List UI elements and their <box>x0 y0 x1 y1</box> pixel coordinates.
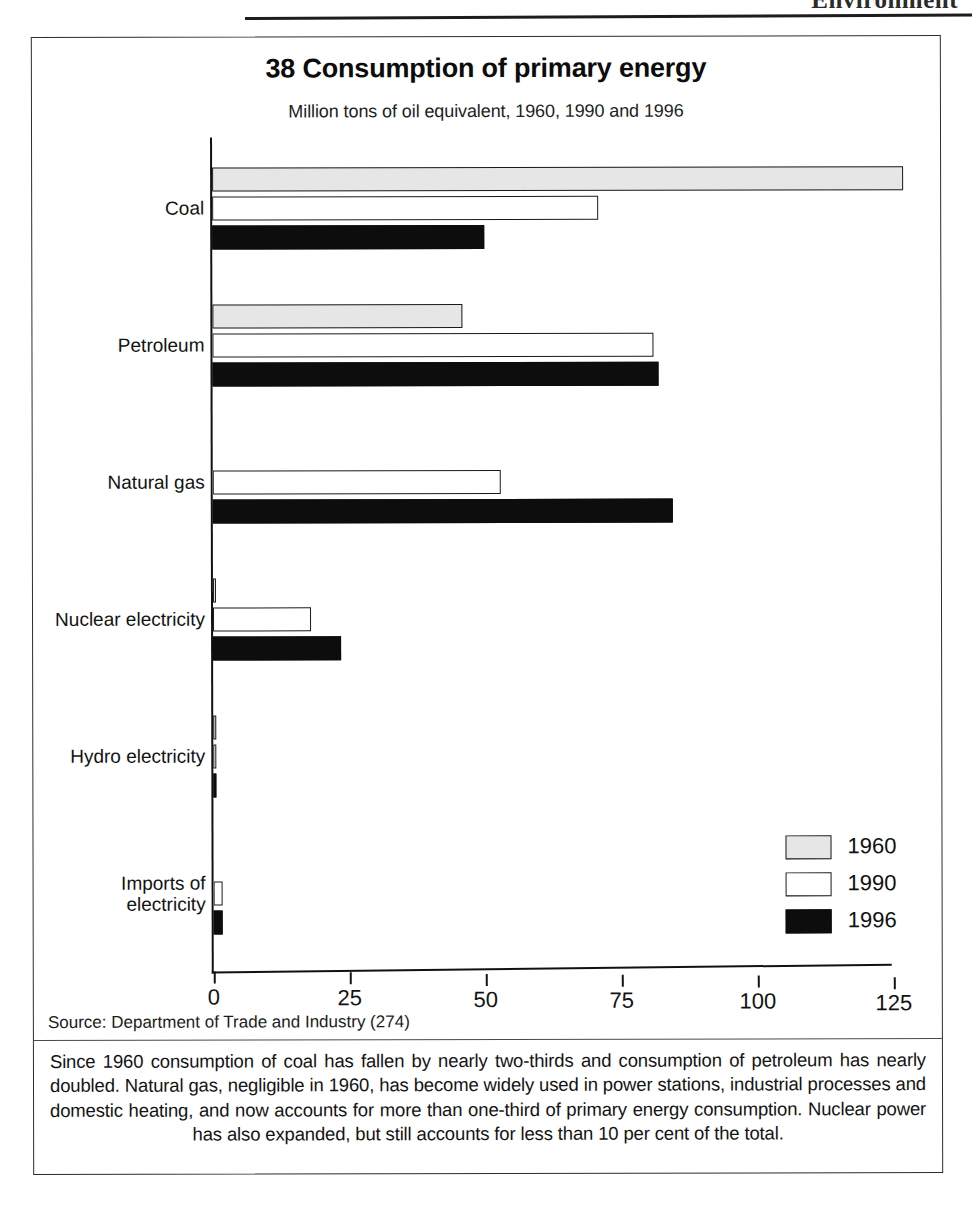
category-label: Imports of electricity <box>0 872 206 916</box>
bar-1990-imports-of-electricity <box>214 882 223 906</box>
x-tick-label: 50 <box>474 987 499 1013</box>
bar-1960-coal <box>212 166 903 191</box>
category-label: Hydro electricity <box>0 745 205 767</box>
bar-group: Hydro electricity <box>33 714 941 803</box>
legend-label: 1960 <box>847 833 896 859</box>
bar-1960-nuclear-electricity <box>213 579 216 603</box>
bar-1960-hydro-electricity <box>213 716 216 740</box>
bar-1996-nuclear-electricity <box>213 636 341 660</box>
category-label: Coal <box>0 197 204 219</box>
x-tick <box>894 977 896 989</box>
bar-1996-imports-of-electricity <box>214 911 223 935</box>
x-tick <box>350 972 352 984</box>
bar-1990-nuclear-electricity <box>213 607 311 631</box>
bar-1996-hydro-electricity <box>213 774 216 798</box>
x-tick-label: 125 <box>875 990 912 1016</box>
bar-1996-petroleum <box>212 362 658 387</box>
bar-1990-hydro-electricity <box>213 745 216 769</box>
bar-1996-coal <box>212 225 484 250</box>
chart-subtitle: Million tons of oil equivalent, 1960, 19… <box>32 100 940 123</box>
header-rule <box>245 13 972 20</box>
legend-swatch-1996 <box>786 909 832 933</box>
bar-group: Natural gas <box>33 440 941 529</box>
chart-title: 38 Consumption of primary energy <box>32 52 940 85</box>
y-axis-line <box>210 138 214 974</box>
legend-swatch-1990 <box>786 872 832 896</box>
figure-inner: 38 Consumption of primary energy Million… <box>32 36 942 1174</box>
legend-swatch-1960 <box>785 835 831 859</box>
bar-1990-petroleum <box>212 333 653 358</box>
running-head: Environment <box>811 0 958 14</box>
category-label: Natural gas <box>0 471 205 493</box>
category-label: Nuclear electricity <box>0 608 205 630</box>
bar-group: Petroleum <box>32 303 940 392</box>
x-tick <box>486 974 488 986</box>
source-note: Source: Department of Trade and Industry… <box>48 1012 410 1033</box>
plot-area: CoalPetroleumNatural gasNuclear electric… <box>32 132 942 994</box>
figure-caption: Since 1960 consumption of coal has falle… <box>50 1048 926 1147</box>
page-header: Environment <box>0 0 980 30</box>
legend-item: 1996 <box>786 906 936 938</box>
caption-divider <box>34 1038 942 1041</box>
bar-group: Coal <box>32 166 940 255</box>
x-tick-label: 100 <box>739 989 776 1015</box>
x-tick-label: 0 <box>208 985 220 1011</box>
x-tick-label: 75 <box>610 988 635 1014</box>
x-tick-label: 25 <box>338 986 363 1012</box>
bar-1960-petroleum <box>212 304 462 329</box>
x-tick <box>214 972 216 984</box>
bar-1990-coal <box>212 196 598 221</box>
legend-item: 1990 <box>786 869 936 901</box>
legend-label: 1990 <box>848 870 897 896</box>
bar-group: Nuclear electricity <box>33 577 941 666</box>
figure-frame: 38 Consumption of primary energy Million… <box>31 35 943 1175</box>
legend-item: 1960 <box>785 832 935 864</box>
bar-groups: CoalPetroleumNatural gasNuclear electric… <box>32 132 940 134</box>
legend-label: 1996 <box>848 907 897 933</box>
bar-1996-natural-gas <box>213 499 673 524</box>
x-tick <box>758 975 760 987</box>
category-label: Petroleum <box>0 334 204 356</box>
chart-legend: 196019901996 <box>785 832 935 943</box>
x-tick <box>622 975 624 987</box>
bar-1990-natural-gas <box>213 470 501 495</box>
